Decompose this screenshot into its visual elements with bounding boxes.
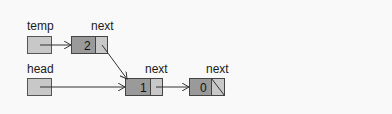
- next-label-node-2: next: [91, 19, 114, 33]
- node-1-data-cell: [126, 79, 151, 96]
- next-label-node-1: next: [145, 62, 168, 76]
- pointer-temp: temp: [27, 19, 54, 54]
- node-2: next 2: [72, 19, 115, 54]
- next-label-node-0: next: [206, 62, 229, 76]
- node-2-value: 2: [84, 39, 91, 53]
- pointer-label-temp: temp: [27, 19, 54, 33]
- node-0: next 0: [190, 62, 230, 96]
- pointer-head: head: [27, 62, 54, 96]
- linked-list-diagram: temp head next 2 next 1 next 0: [0, 0, 392, 114]
- node-1: next 1: [126, 62, 169, 96]
- arrow-node-2-to-node-1: [102, 45, 127, 79]
- node-2-next-cell: [96, 37, 108, 54]
- node-0-value: 0: [200, 81, 207, 95]
- pointer-label-head: head: [27, 62, 54, 76]
- node-1-value: 1: [140, 81, 147, 95]
